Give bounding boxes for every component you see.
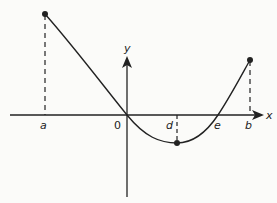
point-b <box>247 57 253 63</box>
tick-label-a: a <box>40 119 47 132</box>
tick-label-b: b <box>245 119 252 132</box>
function-graph: y x 0 a d e b <box>0 0 277 203</box>
point-a <box>42 11 48 17</box>
tick-label-e: e <box>214 119 221 132</box>
tick-label-d: d <box>166 119 174 132</box>
y-axis-label: y <box>123 42 131 55</box>
x-axis-label: x <box>265 109 273 122</box>
origin-label: 0 <box>114 119 121 132</box>
point-d-min <box>174 140 180 146</box>
